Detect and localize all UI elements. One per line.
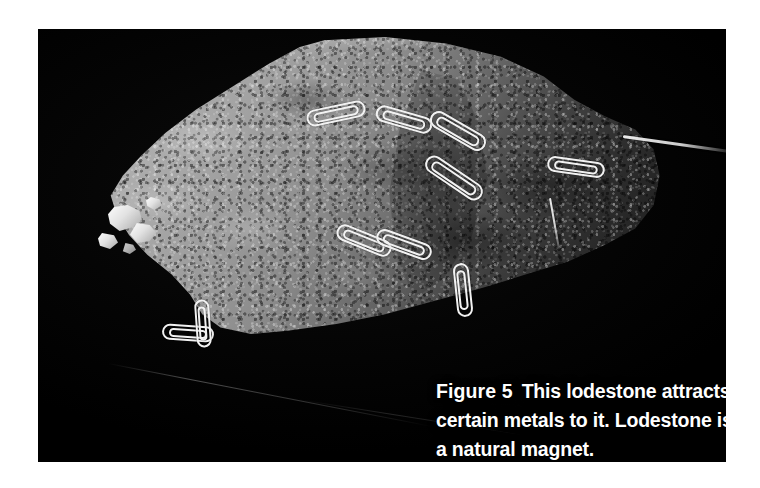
crystal-patch	[122, 243, 136, 254]
lodestone-rock	[68, 37, 678, 367]
crystal-patch	[98, 233, 118, 249]
figure-page: Figure 5This lodestone attracts certain …	[0, 0, 760, 488]
figure-caption: Figure 5This lodestone attracts certain …	[436, 377, 726, 462]
figure-label: Figure 5	[436, 380, 513, 402]
lodestone-photograph: Figure 5This lodestone attracts certain …	[38, 29, 726, 462]
